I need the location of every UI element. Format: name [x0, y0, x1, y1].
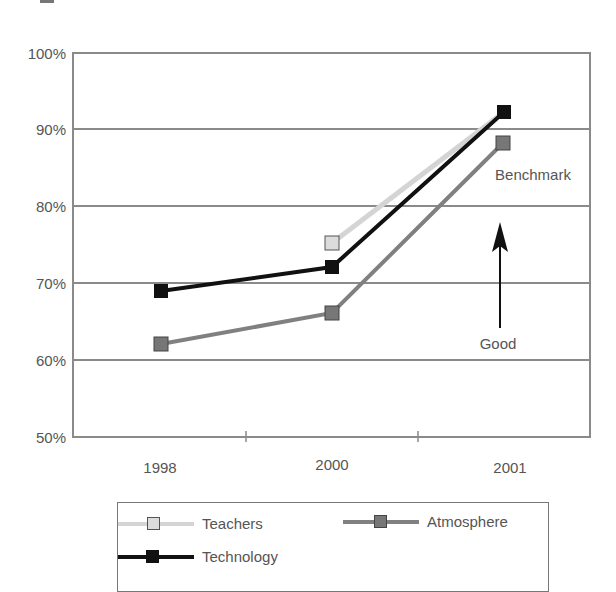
marker-technology-1998: [154, 284, 168, 298]
y-tick-80: 80%: [36, 198, 66, 215]
good-label: Good: [480, 335, 517, 352]
technology-swatch-icon: [118, 550, 194, 564]
benchmark-label: Benchmark: [495, 166, 571, 183]
teachers-swatch-icon: [118, 517, 194, 531]
y-tick-90: 90%: [36, 121, 66, 138]
legend-label-teachers: Teachers: [202, 515, 263, 532]
x-tick-2000: 2000: [315, 456, 348, 473]
marker-atmosphere-1998: [154, 337, 168, 351]
atmosphere-swatch-icon: [343, 515, 419, 529]
legend-item-teachers: Teachers: [118, 515, 263, 532]
marker-atmosphere-2001: [496, 136, 510, 150]
legend-item-technology: Technology: [118, 548, 278, 565]
series-technology: [154, 105, 511, 298]
y-tick-100: 100%: [28, 45, 66, 62]
up-arrow-icon: [492, 222, 508, 328]
marker-teachers-2000: [325, 236, 339, 250]
marker-technology-2001: [497, 105, 511, 119]
x-tick-2001: 2001: [493, 459, 526, 476]
legend-label-atmosphere: Atmosphere: [427, 513, 508, 530]
y-tick-60: 60%: [36, 352, 66, 369]
legend-item-atmosphere: Atmosphere: [343, 513, 508, 530]
y-tick-70: 70%: [36, 275, 66, 292]
marker-atmosphere-2000: [325, 306, 339, 320]
marker-technology-2000: [325, 260, 339, 274]
legend: Teachers Atmosphere Technology: [117, 502, 549, 592]
y-tick-50: 50%: [36, 429, 66, 446]
legend-label-technology: Technology: [202, 548, 278, 565]
x-tick-1998: 1998: [143, 459, 176, 476]
